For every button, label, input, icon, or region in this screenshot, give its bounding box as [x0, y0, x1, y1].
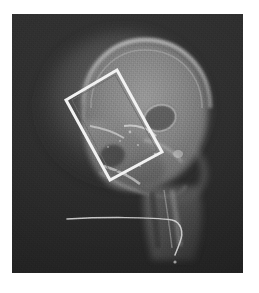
roi-overlay-layer[interactable]: [12, 14, 243, 273]
region-of-interest-rectangle[interactable]: [66, 70, 162, 180]
radiograph-page: [0, 0, 259, 293]
caption-artifact: [92, 281, 204, 291]
radiograph-plate: [12, 14, 243, 273]
